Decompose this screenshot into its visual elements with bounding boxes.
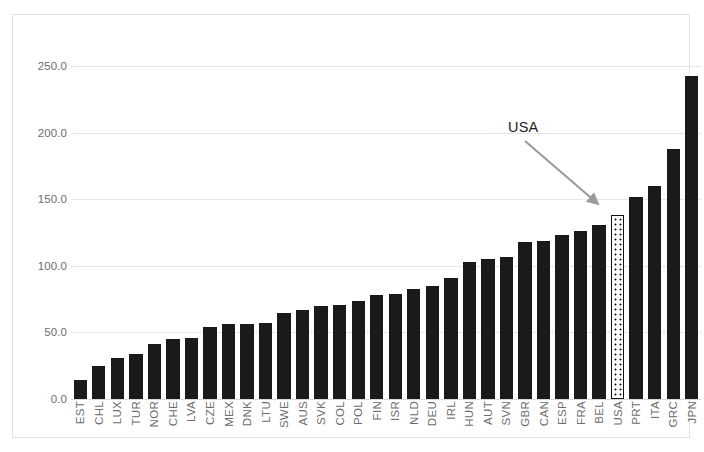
bar-aus[interactable]: [296, 310, 309, 399]
x-tick-label-usa: USA: [612, 401, 624, 426]
x-tick-label-cze: CZE: [204, 401, 216, 425]
x-tick-label-grc: GRC: [667, 401, 679, 427]
x-tick-label-tur: TUR: [130, 401, 142, 426]
bar-fin[interactable]: [370, 295, 383, 399]
x-tick-label-ita: ITA: [649, 401, 661, 419]
bar-bel[interactable]: [592, 225, 605, 399]
bar-che[interactable]: [166, 339, 179, 399]
bar-svk[interactable]: [314, 306, 327, 399]
gridline-50.0: [71, 332, 701, 333]
bar-nld[interactable]: [407, 289, 420, 399]
x-tick-label-aus: AUS: [297, 401, 309, 426]
bar-lux[interactable]: [111, 358, 124, 399]
bar-ltu[interactable]: [259, 323, 272, 399]
y-tick-label: 0.0: [21, 393, 67, 405]
gridline-250.0: [71, 66, 701, 67]
bar-jpn[interactable]: [685, 76, 698, 399]
bar-chl[interactable]: [92, 366, 105, 399]
x-tick-label-gbr: GBR: [519, 401, 531, 427]
bar-grc[interactable]: [667, 149, 680, 399]
x-tick-label-fin: FIN: [371, 401, 383, 420]
x-axis-tick-labels: ESTCHLLUXTURNORCHELVACZEMEXDNKLTUSWEAUSS…: [71, 401, 701, 452]
bar-hun[interactable]: [463, 262, 476, 399]
y-tick-label: 50.0: [21, 326, 67, 338]
x-tick-label-lux: LUX: [111, 401, 123, 424]
gridline-200.0: [71, 133, 701, 134]
y-tick-label: 150.0: [21, 193, 67, 205]
bar-esp[interactable]: [555, 235, 568, 399]
x-tick-label-irl: IRL: [445, 401, 457, 420]
x-tick-label-nor: NOR: [148, 401, 160, 427]
x-tick-label-hun: HUN: [463, 401, 475, 427]
bar-pol[interactable]: [352, 301, 365, 399]
x-tick-label-can: CAN: [538, 401, 550, 426]
x-tick-label-ltu: LTU: [260, 401, 272, 423]
x-tick-label-svn: SVN: [500, 401, 512, 426]
x-tick-label-aut: AUT: [482, 401, 494, 425]
x-tick-label-esp: ESP: [556, 401, 568, 425]
x-tick-label-isr: ISR: [389, 401, 401, 421]
bar-gbr[interactable]: [518, 242, 531, 399]
chart-frame: 0.050.0100.0150.0200.0250.0 ESTCHLLUXTUR…: [12, 14, 690, 438]
x-tick-label-swe: SWE: [278, 401, 290, 428]
bar-lva[interactable]: [185, 338, 198, 399]
x-tick-label-col: COL: [334, 401, 346, 426]
y-tick-label: 250.0: [21, 60, 67, 72]
bar-usa[interactable]: [611, 215, 624, 399]
bar-est[interactable]: [74, 380, 87, 399]
bar-svn[interactable]: [500, 257, 513, 399]
x-tick-label-che: CHE: [167, 401, 179, 426]
bar-irl[interactable]: [444, 278, 457, 399]
x-tick-label-lva: LVA: [185, 401, 197, 422]
x-tick-label-est: EST: [74, 401, 86, 424]
bar-mex[interactable]: [222, 324, 235, 399]
gridline-100.0: [71, 266, 701, 267]
y-tick-label: 100.0: [21, 260, 67, 272]
bar-tur[interactable]: [129, 354, 142, 399]
bar-col[interactable]: [333, 305, 346, 399]
x-tick-label-deu: DEU: [426, 401, 438, 426]
bar-nor[interactable]: [148, 344, 161, 399]
x-tick-label-dnk: DNK: [241, 401, 253, 426]
bar-prt[interactable]: [629, 197, 642, 399]
bar-dnk[interactable]: [240, 324, 253, 399]
x-tick-label-pol: POL: [352, 401, 364, 425]
x-tick-label-svk: SVK: [315, 401, 327, 425]
x-tick-label-jpn: JPN: [686, 401, 698, 424]
bar-deu[interactable]: [426, 286, 439, 399]
x-tick-label-chl: CHL: [93, 401, 105, 425]
x-tick-label-prt: PRT: [630, 401, 642, 425]
y-axis-tick-labels: 0.050.0100.0150.0200.0250.0: [17, 53, 67, 399]
bar-ita[interactable]: [648, 186, 661, 399]
bar-isr[interactable]: [389, 294, 402, 399]
usa-annotation-label: USA: [508, 119, 538, 135]
bar-cze[interactable]: [203, 327, 216, 399]
gridline-150.0: [71, 199, 701, 200]
bar-swe[interactable]: [277, 313, 290, 400]
plot-area: [71, 53, 701, 399]
x-tick-label-mex: MEX: [223, 401, 235, 427]
x-axis-baseline: [71, 399, 701, 400]
x-tick-label-nld: NLD: [408, 401, 420, 425]
bar-fra[interactable]: [574, 231, 587, 399]
bar-can[interactable]: [537, 241, 550, 399]
y-tick-label: 200.0: [21, 127, 67, 139]
bar-aut[interactable]: [481, 259, 494, 399]
x-tick-label-fra: FRA: [575, 401, 587, 425]
x-tick-label-bel: BEL: [593, 401, 605, 424]
